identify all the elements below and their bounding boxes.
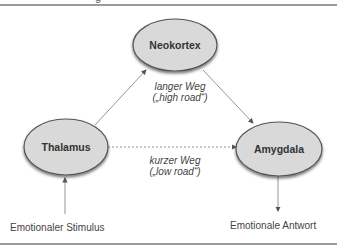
input-label: Emotionaler Stimulus <box>10 222 120 233</box>
edge-thalamus-neokortex <box>95 70 146 125</box>
long-path-label-line1: langer Weg <box>140 81 220 92</box>
node-neokortex: Neokortex <box>133 35 217 55</box>
node-amygdala: Amygdala <box>236 139 322 159</box>
short-path-label-line1: kurzer Weg <box>135 155 215 166</box>
output-label: Emotionale Antwort <box>230 220 330 231</box>
short-path-label: kurzer Weg („low road“) <box>135 155 215 177</box>
node-thalamus: Thalamus <box>24 137 108 157</box>
long-path-label: langer Weg („high road“) <box>140 81 220 103</box>
long-path-label-line2: („high road“) <box>140 92 220 103</box>
short-path-label-line2: („low road“) <box>135 166 215 177</box>
